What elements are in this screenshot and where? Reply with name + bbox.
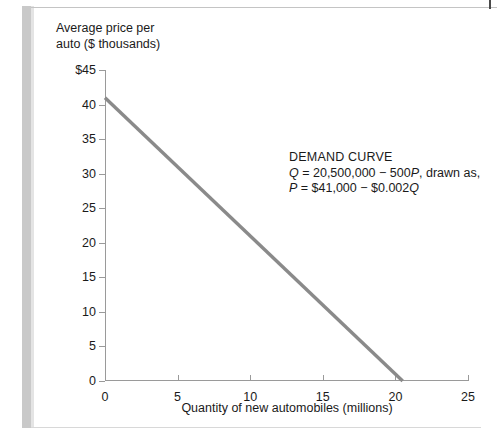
y-tick-label: 15 xyxy=(82,270,96,284)
y-tick-label: 10 xyxy=(82,305,96,319)
annotation-equation-1: Q = 20,500,000 − 500P, drawn as, xyxy=(289,166,480,182)
y-axis-title-line2: auto ($ thousands) xyxy=(56,37,160,51)
x-tick-mark xyxy=(468,375,469,381)
page-rule-top xyxy=(31,7,497,8)
x-axis-title: Quantity of new automobiles (millions) xyxy=(105,401,469,415)
page-scan-left-bar-shade xyxy=(31,6,34,428)
demand-curve-annotation: DEMAND CURVE Q = 20,500,000 − 500P, draw… xyxy=(289,150,480,197)
equation1-variable-p: P xyxy=(411,166,419,180)
annotation-heading: DEMAND CURVE xyxy=(289,150,480,166)
y-tick-label: 40 xyxy=(82,98,96,112)
plot-area: 0510152025303540$45 0510152025 xyxy=(105,70,468,381)
page-scan-left-bar xyxy=(22,6,31,428)
y-tick-label: 30 xyxy=(82,167,96,181)
y-tick-label: $45 xyxy=(75,63,96,77)
annotation-equation-2: P = $41,000 − $0.002Q xyxy=(289,181,480,197)
figure-page: Average price per auto ($ thousands) 051… xyxy=(0,0,501,444)
demand-curve-line xyxy=(105,98,403,381)
page-rule-bottom xyxy=(31,427,481,428)
y-axis-title-line1: Average price per xyxy=(56,21,154,35)
equation2-body: = $41,000 − $0.002 xyxy=(297,181,409,195)
equation1-body: = 20,500,000 − 500 xyxy=(299,166,411,180)
demand-curve-svg xyxy=(105,70,468,381)
equation2-variable-q: Q xyxy=(409,181,419,195)
page-corner-tick xyxy=(489,0,491,9)
equation1-tail: , drawn as, xyxy=(419,166,480,180)
y-axis-title: Average price per auto ($ thousands) xyxy=(56,20,160,52)
y-tick-label: 25 xyxy=(82,201,96,215)
y-tick-label: 35 xyxy=(82,132,96,146)
y-tick-label: 5 xyxy=(89,339,96,353)
y-tick-label: 20 xyxy=(82,236,96,250)
equation1-variable-q: Q xyxy=(289,166,299,180)
y-tick-label: 0 xyxy=(89,374,96,388)
y-tick-mark xyxy=(99,381,105,382)
